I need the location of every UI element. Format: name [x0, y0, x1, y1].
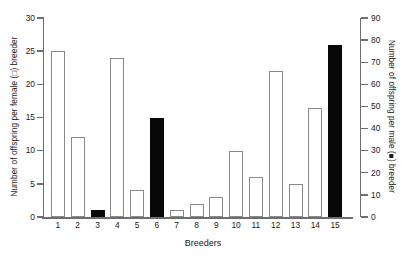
- y-tick-right: [361, 216, 368, 217]
- bar-chart-figure: Number of offspring per female (□) breed…: [0, 0, 406, 257]
- y-tick-left: [37, 17, 44, 18]
- bar-breeder-9: [209, 197, 223, 217]
- y-tick-right: [361, 194, 368, 195]
- y-tick-label-left: 10: [14, 146, 35, 154]
- y-tick-left: [37, 150, 44, 151]
- y-tick-right: [361, 84, 368, 85]
- bar-breeder-12: [269, 71, 283, 217]
- bar-breeder-2: [71, 137, 85, 217]
- y-tick-label-left: 0: [14, 213, 35, 221]
- y-tick-right: [361, 106, 368, 107]
- y-tick-label-right: 0: [371, 213, 393, 221]
- bar-breeder-7: [170, 210, 184, 217]
- bar-breeder-14: [308, 108, 322, 217]
- x-tick-label-15: 15: [323, 221, 347, 229]
- bar-breeder-8: [190, 204, 204, 217]
- bar-breeder-1: [51, 51, 65, 217]
- y-tick-right: [361, 128, 368, 129]
- y-tick-label-right: 80: [371, 36, 393, 44]
- y-tick-label-right: 10: [371, 191, 393, 199]
- y-tick-label-right: 90: [371, 14, 393, 22]
- y-tick-right: [361, 172, 368, 173]
- bar-breeder-6: [150, 118, 164, 218]
- plot-area: [48, 16, 345, 217]
- y-tick-left: [37, 84, 44, 85]
- y-tick-label-left: 30: [14, 14, 35, 22]
- y-tick-label-right: 50: [371, 102, 393, 110]
- y-tick-left: [37, 216, 44, 217]
- y-tick-right: [361, 62, 368, 63]
- y-tick-label-right: 30: [371, 146, 393, 154]
- y-tick-label-right: 40: [371, 124, 393, 132]
- x-axis-label: Breeders: [0, 238, 406, 248]
- y-tick-label-right: 70: [371, 58, 393, 66]
- bar-breeder-15: [328, 45, 342, 217]
- y-tick-right: [361, 17, 368, 18]
- x-axis-baseline: [42, 217, 353, 219]
- bar-breeder-3: [91, 210, 105, 217]
- y-tick-label-left: 15: [14, 113, 35, 121]
- y-tick-label-left: 20: [14, 80, 35, 88]
- y-tick-label-left: 25: [14, 47, 35, 55]
- y-tick-left: [37, 183, 44, 184]
- y-tick-left: [37, 117, 44, 118]
- bar-breeder-13: [289, 184, 303, 217]
- bar-breeder-5: [130, 190, 144, 217]
- y-tick-right: [361, 150, 368, 151]
- y-tick-label-right: 20: [371, 169, 393, 177]
- bar-breeder-4: [110, 58, 124, 217]
- bar-breeder-11: [249, 177, 263, 217]
- y-tick-label-right: 60: [371, 80, 393, 88]
- y-tick-label-left: 5: [14, 180, 35, 188]
- y-tick-left: [37, 50, 44, 51]
- y-axis-right-spine: [360, 18, 361, 217]
- y-tick-right: [361, 39, 368, 40]
- bar-breeder-10: [229, 151, 243, 217]
